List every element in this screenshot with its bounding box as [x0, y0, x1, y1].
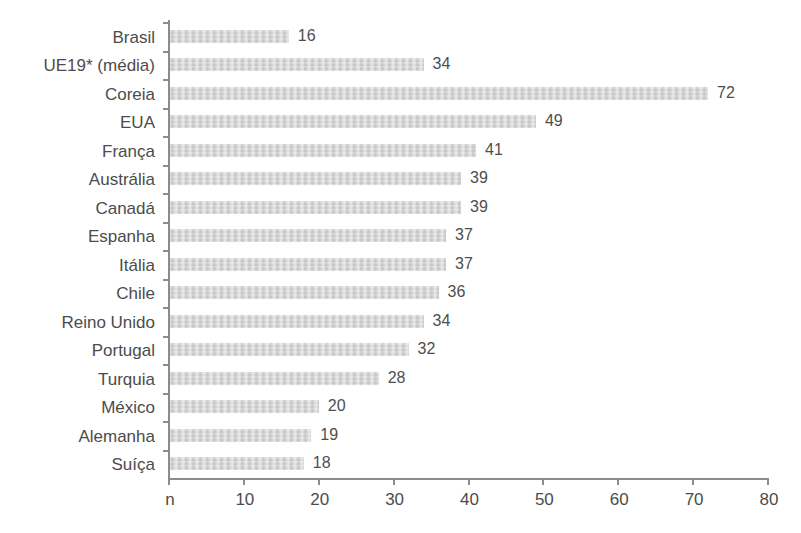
x-axis-tick-label: 70 — [674, 490, 714, 510]
bar — [169, 115, 536, 128]
category-label: Austrália — [0, 171, 155, 188]
x-axis-tick — [767, 478, 769, 485]
category-label: Chile — [0, 285, 155, 302]
bar — [169, 229, 446, 242]
bar — [169, 201, 461, 214]
bar-value-label: 37 — [455, 228, 473, 241]
category-label: Canadá — [0, 200, 155, 217]
bar — [169, 457, 304, 470]
x-axis-tick-label: 30 — [375, 490, 415, 510]
x-axis-tick — [168, 478, 170, 485]
category-label: Reino Unido — [0, 314, 155, 331]
bar-chart: BrasilUE19* (média)CoreiaEUAFrançaAustrá… — [0, 0, 801, 533]
bar-value-label: 16 — [298, 29, 316, 42]
x-axis-tick — [692, 478, 694, 485]
bar — [169, 172, 461, 185]
x-axis-tick-label: 40 — [450, 490, 490, 510]
plot-area: 16347249413939373736343228201918 — [169, 22, 768, 478]
category-label: UE19* (média) — [0, 57, 155, 74]
x-axis-tick — [468, 478, 470, 485]
bar-value-label: 34 — [433, 314, 451, 327]
bar-value-label: 49 — [545, 114, 563, 127]
bar — [169, 429, 311, 442]
bar-value-label: 36 — [448, 285, 466, 298]
x-axis-tick — [393, 478, 395, 485]
x-axis-tick-label: 80 — [749, 490, 789, 510]
x-axis-tick-label: n — [150, 490, 190, 510]
bar — [169, 58, 424, 71]
x-axis-tick-label: 20 — [300, 490, 340, 510]
y-axis-line — [168, 20, 170, 480]
bar — [169, 144, 476, 157]
category-label: Suíça — [0, 456, 155, 473]
category-label: França — [0, 143, 155, 160]
category-label: Alemanha — [0, 428, 155, 445]
x-axis-tick — [318, 478, 320, 485]
category-label: Brasil — [0, 29, 155, 46]
bar-value-label: 18 — [313, 456, 331, 469]
bar — [169, 87, 708, 100]
category-label: Itália — [0, 257, 155, 274]
bar-value-label: 39 — [470, 171, 488, 184]
category-label: Portugal — [0, 342, 155, 359]
bar-value-label: 37 — [455, 257, 473, 270]
bar — [169, 30, 289, 43]
bar — [169, 372, 379, 385]
bar — [169, 343, 409, 356]
category-label: Turquia — [0, 371, 155, 388]
x-axis-tick-label: 50 — [524, 490, 564, 510]
category-label: Coreia — [0, 86, 155, 103]
x-axis-tick-label: 10 — [225, 490, 265, 510]
bar-value-label: 20 — [328, 399, 346, 412]
x-axis-tick — [617, 478, 619, 485]
bar — [169, 258, 446, 271]
x-axis-tick-label: 60 — [599, 490, 639, 510]
bar-value-label: 72 — [717, 86, 735, 99]
bar-value-label: 19 — [320, 428, 338, 441]
x-axis-tick — [243, 478, 245, 485]
category-label: México — [0, 399, 155, 416]
bar-value-label: 32 — [418, 342, 436, 355]
bar-value-label: 34 — [433, 57, 451, 70]
bar-value-label: 39 — [470, 200, 488, 213]
bar — [169, 315, 424, 328]
category-label: Espanha — [0, 228, 155, 245]
category-label: EUA — [0, 114, 155, 131]
bar-value-label: 41 — [485, 143, 503, 156]
bar — [169, 286, 439, 299]
bar-value-label: 28 — [388, 371, 406, 384]
x-axis-tick — [542, 478, 544, 485]
bar — [169, 400, 319, 413]
